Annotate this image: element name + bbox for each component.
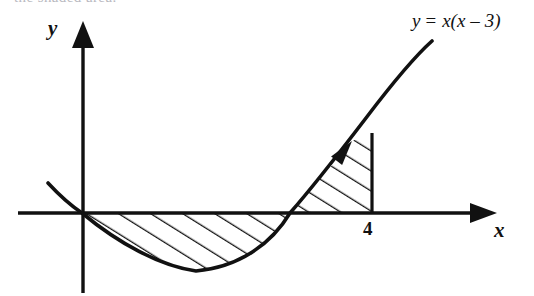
equation-rhs-a: x [442,10,450,31]
shaded-region-above-axis [284,130,380,220]
x-tick-label-4: 4 [363,219,373,238]
equation-rhs-b: (x [451,10,466,31]
parabola-shaded-area-diagram [0,0,534,296]
y-axis-arrowhead [72,21,94,48]
equation-minus: – [470,10,480,31]
equation-rhs-c: 3) [485,10,501,31]
shaded-region-below-axis [70,205,302,285]
hatch-fill-lower [70,205,302,285]
equation-lhs: y [412,10,420,31]
x-axis-label: x [494,220,505,241]
equation-equals: = [425,10,436,31]
figure-container: the shaded area. [0,0,534,296]
hatch-fill-upper [284,130,380,220]
y-axis-label: y [48,18,57,39]
curve-equation-label: y=x(x–3) [412,11,501,30]
x-axis-arrowhead [470,203,497,223]
y-axis [72,21,94,293]
